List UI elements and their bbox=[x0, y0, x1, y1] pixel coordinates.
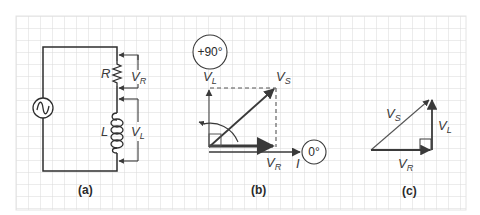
caption-a: (a) bbox=[78, 183, 93, 197]
rl-series-circuit-figure: R L VR VL (a) bbox=[0, 0, 480, 215]
angle-90-badge: +90° bbox=[193, 35, 227, 69]
caption-b: (b) bbox=[251, 183, 266, 197]
current-label: I bbox=[296, 156, 300, 171]
angle-0-badge: 0° bbox=[302, 140, 326, 164]
svg-text:+90°: +90° bbox=[197, 45, 222, 59]
inductor-label: L bbox=[101, 124, 108, 139]
resistor-label: R bbox=[101, 66, 110, 81]
ac-source-icon bbox=[33, 98, 53, 118]
svg-text:0°: 0° bbox=[308, 145, 320, 159]
caption-c: (c) bbox=[402, 184, 417, 198]
